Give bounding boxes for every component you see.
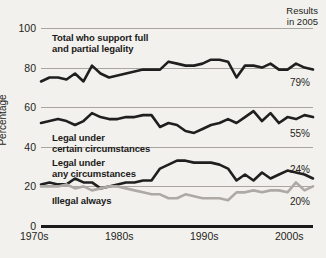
end-label-certain: 55%	[290, 128, 310, 139]
series-label-any: Legal under any circumstances	[52, 158, 136, 179]
y-tick-label: 40	[24, 141, 36, 153]
series-label-illegal: Illegal always	[52, 196, 111, 207]
chart-container: Results in 2005 Percentage 020406080100 …	[0, 0, 326, 258]
series-label-total: Total who support full and partial legal…	[52, 33, 148, 54]
series-line	[41, 60, 313, 82]
end-label-total: 79%	[290, 77, 310, 88]
x-tick-label: 1980s	[105, 230, 134, 242]
results-year-note: Results in 2005	[286, 5, 318, 27]
x-tick-label: 1990s	[190, 230, 219, 242]
series-label-certain: Legal under certain circumstances	[52, 133, 150, 154]
y-tick-label: 20	[24, 180, 36, 192]
y-tick-label: 100	[18, 22, 36, 34]
y-tick-label: 60	[24, 101, 36, 113]
y-tick-label: 80	[24, 62, 36, 74]
end-label-illegal: 20%	[290, 196, 310, 207]
y-axis-title: Percentage	[0, 94, 8, 145]
x-tick-label: 1970s	[20, 230, 49, 242]
series-line	[41, 111, 313, 133]
x-tick-label: 2000s	[275, 230, 304, 242]
end-label-any: 24%	[290, 164, 310, 175]
